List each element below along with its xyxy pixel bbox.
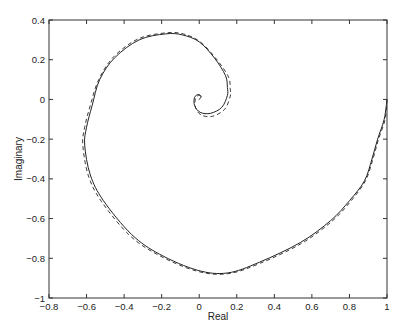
axis-ticks: [49, 20, 387, 298]
x-tick-label: −0.4: [115, 301, 134, 312]
y-tick-label: 0.2: [32, 54, 45, 65]
data-series: [83, 32, 387, 274]
y-tick-label: 0.4: [32, 15, 45, 26]
x-tick-label: 1: [384, 301, 389, 312]
dashed-line: [83, 32, 387, 274]
x-tick-label: −0.2: [152, 301, 171, 312]
y-axis-label: Imaginary: [13, 137, 24, 181]
x-tick-label: 0.2: [230, 301, 243, 312]
x-tick-label: 0.4: [268, 301, 281, 312]
y-tick-labels: −1−0.8−0.6−0.4−0.200.20.4: [26, 15, 45, 304]
y-tick-label: −0.2: [26, 134, 45, 145]
solid-line: [85, 33, 387, 273]
x-tick-label: 0.6: [305, 301, 318, 312]
y-tick-label: 0: [40, 94, 45, 105]
x-axis-label: Real: [208, 311, 229, 322]
y-tick-label: −1: [34, 293, 45, 304]
x-tick-label: 0: [197, 301, 202, 312]
x-tick-label: 0.8: [343, 301, 356, 312]
x-tick-label: −0.6: [77, 301, 96, 312]
y-tick-label: −0.4: [26, 173, 45, 184]
y-tick-label: −0.8: [26, 253, 45, 264]
plot-frame: [49, 20, 387, 298]
spiral-chart: −0.8−0.6−0.4−0.200.20.40.60.81 −1−0.8−0.…: [0, 0, 406, 332]
y-tick-label: −0.6: [26, 213, 45, 224]
